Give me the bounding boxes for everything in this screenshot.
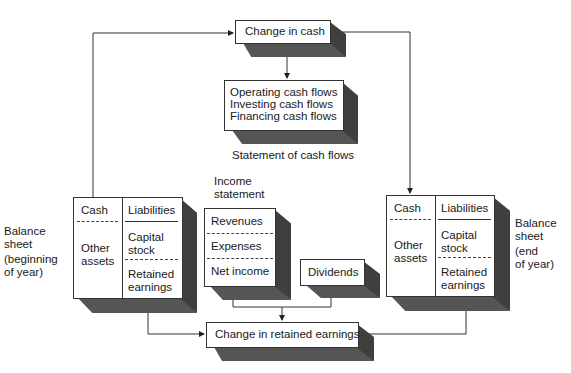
other-assets-line2: assets	[81, 255, 114, 268]
balance-label-line1: Balance	[515, 216, 557, 230]
balance-label-line2: sheet	[4, 237, 32, 251]
cash-cell: Cash	[394, 202, 421, 215]
retained-earnings-line1: Retained	[441, 266, 487, 279]
other-assets-line1: Other	[394, 239, 423, 252]
capital-stock-line1: Capital	[128, 231, 164, 244]
other-assets-line2: assets	[394, 252, 427, 265]
balance-label-line4: of year)	[4, 265, 43, 279]
capital-stock-line2: stock	[128, 244, 155, 257]
financing-cash-flows: Financing cash flows	[230, 110, 337, 123]
retained-earnings-line2: earnings	[128, 281, 172, 294]
liabilities-cell: Liabilities	[441, 202, 488, 215]
change-in-cash-label: Change in cash	[245, 25, 325, 38]
retained-earnings-line2: earnings	[441, 279, 485, 292]
income-statement-title-line2: statement	[214, 187, 265, 201]
balance-label-line2: sheet	[515, 229, 543, 243]
net-income-row: Net income	[211, 265, 269, 278]
balance-label-line1: Balance	[4, 224, 46, 238]
statement-of-cash-flows-caption: Statement of cash flows	[232, 149, 354, 162]
income-statement-title-line1: Income	[214, 174, 252, 188]
liabilities-cell: Liabilities	[128, 204, 175, 217]
balance-label-line4: of year)	[515, 257, 554, 271]
balance-label-line3: (end	[515, 244, 538, 258]
cash-cell: Cash	[81, 204, 108, 217]
balance-label-line3: (beginning	[4, 252, 58, 266]
revenues-row: Revenues	[211, 215, 263, 228]
other-assets-line1: Other	[81, 242, 110, 255]
dividends-label: Dividends	[308, 266, 359, 279]
expenses-row: Expenses	[211, 240, 262, 253]
capital-stock-line2: stock	[441, 242, 468, 255]
capital-stock-line1: Capital	[441, 229, 477, 242]
change-in-retained-earnings-label: Change in retained earnings	[215, 328, 360, 341]
retained-earnings-line1: Retained	[128, 268, 174, 281]
